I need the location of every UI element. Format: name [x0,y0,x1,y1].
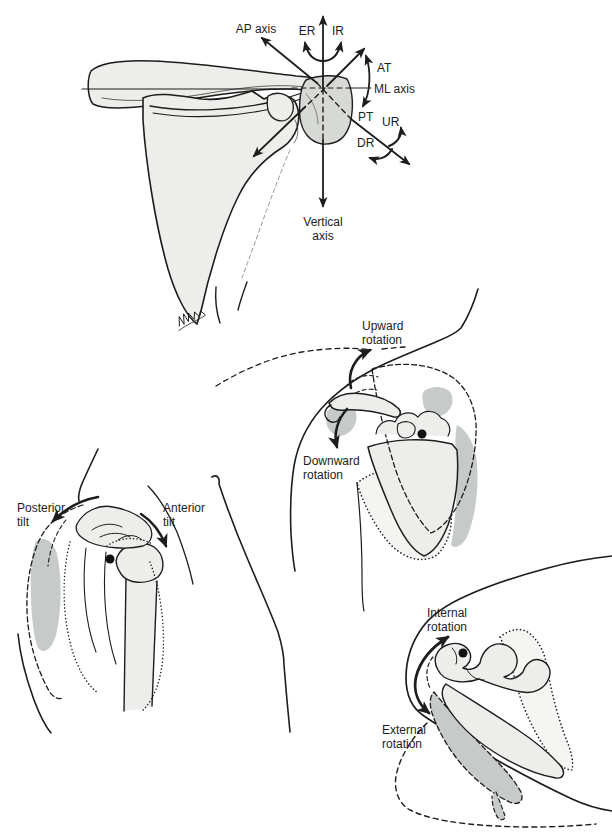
dashed-elevated-contour [216,348,371,386]
anterior-tilt-label-line2: tilt [163,515,176,529]
external-rotation-label-line1: External [382,723,426,737]
vertical-axis-label-line2: axis [312,229,333,243]
panel-axes-of-rotation: AP axis ER IR AT ML axis PT UR DR Vertic… [82,17,415,330]
blade-stroke-2 [104,552,116,664]
blade-stroke-1 [84,548,96,652]
anterior-tilt-label-line1: Anterior [163,501,205,515]
ir-label: IR [332,24,344,38]
ur-rotation-arrow [389,128,401,146]
dashed-coracoid-outline [427,657,433,688]
ap-axis-label: AP axis [236,22,276,36]
at-label: AT [377,61,392,75]
upward-rotation-label-line2: rotation [362,333,402,347]
panel-internal-external-rotation: Internal rotation External rotation [382,556,612,827]
chest-fold-line [357,483,364,611]
neck-back-line [79,449,98,501]
ur-label: UR [382,115,400,129]
rotation-pivot-dot [459,649,468,658]
downward-rotation-label-line1: Downward [303,454,360,468]
panel-upward-downward-rotation: Upward rotation Downward rotation [216,282,478,611]
upward-rotation-label-line1: Upward [362,319,403,333]
humeral-head-outline [116,543,163,582]
rotation-pivot-dot [418,430,427,439]
dr-label: DR [357,136,375,150]
pt-label: PT [358,110,374,124]
scapula-outline [143,91,299,324]
neck-line-left-1 [238,282,247,310]
shade-band-left [31,539,61,651]
dotted-outline-1 [64,542,98,693]
coracoid-bump [397,422,415,438]
dashed-elevated-contour-right [382,347,406,349]
front-chest-line [212,476,290,732]
posterior-tilt-label-line2: tilt [17,515,30,529]
acromion-outline [300,76,353,144]
posterior-tilt-label-line1: Posterior [17,501,65,515]
coracoid-outline [267,93,293,121]
tilt-pivot-dot [106,555,115,564]
internal-rotation-label-line2: rotation [427,620,467,634]
er-label: ER [299,24,316,38]
panel-anterior-posterior-tilt: Posterior tilt Anterior tilt [17,449,290,733]
vertical-axis-label-line1: Vertical [303,215,342,229]
dr-rotation-arrow [370,149,392,159]
internal-rotation-label-line1: Internal [427,606,467,620]
downward-rotation-label-line2: rotation [303,468,343,482]
scapula-motion-figure: AP axis ER IR AT ML axis PT UR DR Vertic… [0,0,612,832]
external-rotation-label-line2: rotation [382,737,422,751]
acromion-cluster-outline [76,506,152,548]
at-pt-rotation-arrow [363,56,369,106]
ml-axis-label: ML axis [374,82,415,96]
neck-line-left-2 [216,287,220,323]
figure-canvas: AP axis ER IR AT ML axis PT UR DR Vertic… [0,0,612,832]
